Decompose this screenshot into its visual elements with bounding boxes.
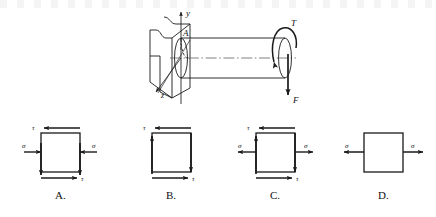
stress-problem-figure: y z A T F τ <box>0 0 436 217</box>
force-label: F <box>292 95 299 105</box>
option-c-top-shear-label: τ <box>247 124 250 132</box>
option-b-element-square <box>152 133 191 172</box>
wall-broken-edge-top <box>150 30 172 66</box>
y-axis-label: y <box>185 8 190 18</box>
option-a[interactable]: τ τ σ σ A. <box>22 124 97 201</box>
option-d[interactable]: σ σ D. <box>344 133 423 201</box>
option-a-label: A. <box>55 189 66 201</box>
figure-root: y z A T F τ <box>0 0 436 217</box>
page-top-cut-text-artifact <box>0 0 436 8</box>
option-c[interactable]: τ τ σ σ C. <box>238 124 313 201</box>
option-b-bottom-shear-label: τ <box>192 175 195 183</box>
option-b[interactable]: τ τ B. <box>143 124 195 201</box>
torque-arrow <box>272 28 296 62</box>
wall-depth-diagonal <box>158 40 190 93</box>
option-d-left-normal-label: σ <box>345 142 349 150</box>
shaft-in-wall-diagram: y z A T F <box>150 8 299 105</box>
option-c-element-square <box>256 133 295 172</box>
option-b-top-shear-label: τ <box>143 124 146 132</box>
wall-top-receding-edge <box>164 17 190 24</box>
option-a-top-shear-label: τ <box>32 124 35 132</box>
option-b-label: B. <box>166 189 176 201</box>
option-a-element-square <box>41 133 80 172</box>
option-c-right-normal-label: σ <box>304 142 308 150</box>
option-c-bottom-shear-label: τ <box>296 175 299 183</box>
option-c-label: C. <box>270 189 280 201</box>
point-a-label: A <box>182 28 189 38</box>
option-a-bottom-shear-label: τ <box>81 175 84 183</box>
option-d-right-normal-label: σ <box>411 142 415 150</box>
torque-label: T <box>291 18 297 28</box>
option-d-label: D. <box>378 189 389 201</box>
option-d-element-square <box>364 133 403 172</box>
option-a-right-normal-label: σ <box>92 142 96 150</box>
option-c-left-normal-label: σ <box>238 142 242 150</box>
option-a-left-normal-label: σ <box>22 142 26 150</box>
